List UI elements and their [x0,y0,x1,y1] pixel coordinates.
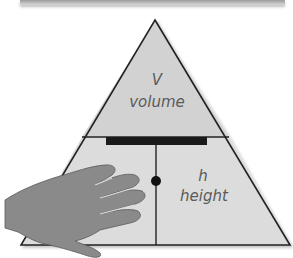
formula-triangle: ase [0,0,293,258]
volume-symbol: V [140,72,174,89]
height-label: height [170,188,238,205]
height-symbol: h [186,168,220,185]
volume-label: volume [115,94,199,111]
division-bar [106,137,207,145]
multiplication-dot [151,176,161,186]
